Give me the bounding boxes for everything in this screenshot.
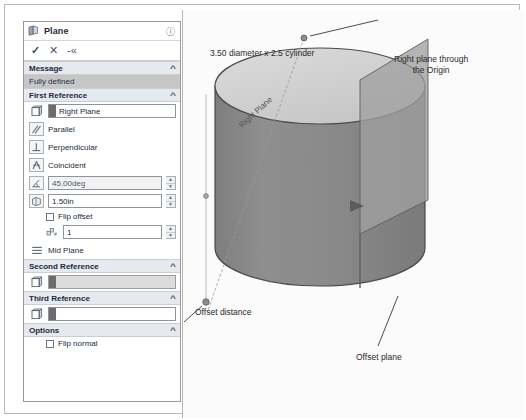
help-icon[interactable]: ⓘ: [164, 25, 176, 38]
plane-icon: [28, 25, 39, 38]
section-label-third-reference: Third Reference: [29, 294, 90, 303]
accept-button[interactable]: ✓: [31, 45, 40, 56]
section-label-first-reference: First Reference: [29, 91, 87, 100]
offset-distance-icon[interactable]: [29, 194, 44, 208]
annotation-offset-distance: Offset distance: [195, 307, 252, 318]
pin-button[interactable]: -«: [67, 45, 77, 56]
panel-action-bar: ✓ ✕ -«: [24, 41, 180, 61]
svg-text:#: #: [54, 231, 57, 237]
annotation-offset-plane: Offset plane: [356, 352, 402, 363]
instance-count-icon: #: [44, 225, 59, 239]
angle-row: 45.00deg ▲ ▼: [24, 174, 180, 192]
instance-count-field[interactable]: 1: [63, 225, 162, 239]
offset-distance-field[interactable]: 1.50in: [48, 194, 162, 208]
constraint-parallel-row[interactable]: Parallel: [24, 120, 180, 138]
instance-count-value: 1: [64, 228, 71, 237]
coincident-icon[interactable]: [29, 158, 44, 172]
flip-offset-row[interactable]: Flip offset: [24, 210, 180, 223]
stepper-down-icon[interactable]: ▼: [166, 184, 175, 190]
instance-count-row: # 1 ▲ ▼: [24, 223, 180, 241]
constraint-perpendicular-row[interactable]: Perpendicular: [24, 138, 180, 156]
section-header-options[interactable]: Options ^: [24, 323, 180, 337]
stepper-down-icon[interactable]: ▼: [166, 202, 175, 208]
figure-frame: Plane ⓘ ✓ ✕ -« Message ^ Fully defined F…: [4, 4, 520, 414]
status-text: Fully defined: [29, 77, 74, 86]
section-header-second-reference[interactable]: Second Reference ^: [24, 259, 180, 273]
cylinder-model-scene: Right Plane: [182, 10, 524, 418]
midpoint-marker: [204, 194, 209, 199]
stepper-down-icon[interactable]: ▼: [166, 233, 175, 239]
third-reference-row: [24, 305, 180, 323]
chevron-up-icon: ^: [170, 92, 176, 99]
section-label-message: Message: [29, 64, 63, 73]
perpendicular-icon[interactable]: [29, 140, 44, 154]
annotation-title-note: 3.50 diameter x 2.5 cylinder: [210, 48, 314, 59]
angle-value: 45.00deg: [49, 179, 85, 188]
leader-line-offset-plane: [378, 296, 398, 346]
third-reference-field[interactable]: [48, 307, 176, 321]
offset-endpoint-marker: [203, 299, 209, 305]
first-reference-value: Right Plane: [56, 107, 100, 116]
flip-normal-label: Flip normal: [58, 339, 98, 348]
chevron-up-icon: ^: [170, 327, 176, 334]
first-reference-row: Right Plane: [24, 102, 180, 120]
chevron-up-icon: ^: [170, 65, 176, 72]
section-label-second-reference: Second Reference: [29, 262, 99, 271]
angle-stepper[interactable]: ▲ ▼: [166, 176, 176, 190]
offset-distance-stepper[interactable]: ▲ ▼: [166, 194, 176, 208]
mid-plane-row[interactable]: Mid Plane: [24, 241, 180, 259]
annotation-right-plane: Right plane through the Origin: [394, 54, 468, 76]
leader-line-right-plane: [310, 20, 378, 36]
angle-icon[interactable]: [29, 176, 44, 190]
section-header-first-reference[interactable]: First Reference ^: [24, 88, 180, 102]
first-reference-field[interactable]: Right Plane: [48, 104, 176, 118]
section-header-message[interactable]: Message ^: [24, 61, 180, 75]
screenshot-root: Plane ⓘ ✓ ✕ -« Message ^ Fully defined F…: [0, 0, 526, 420]
plane-handle-marker: [310, 158, 314, 162]
offset-distance-row: 1.50in ▲ ▼: [24, 192, 180, 210]
second-reference-row: [24, 273, 180, 291]
offset-distance-value: 1.50in: [49, 197, 74, 206]
section-header-third-reference[interactable]: Third Reference ^: [24, 291, 180, 305]
field-color-swatch: [49, 308, 56, 320]
flip-offset-checkbox[interactable]: [46, 213, 54, 221]
constraint-coincident-row[interactable]: Coincident: [24, 156, 180, 174]
chevron-up-icon: ^: [170, 263, 176, 270]
offset-plane-helper: [342, 40, 414, 286]
chevron-up-icon: ^: [170, 295, 176, 302]
field-color-swatch: [49, 105, 56, 117]
plane-property-manager: Plane ⓘ ✓ ✕ -« Message ^ Fully defined F…: [23, 21, 181, 402]
constraint-perpendicular-label: Perpendicular: [48, 143, 97, 152]
panel-header: Plane ⓘ: [24, 22, 180, 41]
angle-field[interactable]: 45.00deg: [48, 176, 162, 190]
section-label-options: Options: [29, 326, 59, 335]
graphics-viewport[interactable]: Right Plane 3.50 diameter x 2.5 cylinder…: [182, 10, 524, 418]
panel-title: Plane: [44, 26, 164, 36]
reference-entity-icon: [29, 275, 44, 289]
mid-plane-label: Mid Plane: [48, 246, 84, 255]
cancel-button[interactable]: ✕: [49, 45, 58, 56]
instance-count-stepper[interactable]: ▲ ▼: [166, 225, 176, 239]
flip-normal-row[interactable]: Flip normal: [24, 337, 180, 350]
flip-normal-checkbox[interactable]: [46, 340, 54, 348]
reference-entity-icon: [29, 307, 44, 321]
status-message: Fully defined: [24, 75, 180, 88]
constraint-coincident-label: Coincident: [48, 161, 86, 170]
reference-entity-icon: [29, 104, 44, 118]
mid-plane-icon[interactable]: [29, 243, 44, 257]
field-color-swatch: [49, 276, 56, 288]
parallel-icon[interactable]: [29, 122, 44, 136]
flip-offset-label: Flip offset: [58, 212, 93, 221]
origin-point-marker: [301, 35, 307, 41]
constraint-parallel-label: Parallel: [48, 125, 75, 134]
second-reference-field[interactable]: [48, 275, 176, 289]
